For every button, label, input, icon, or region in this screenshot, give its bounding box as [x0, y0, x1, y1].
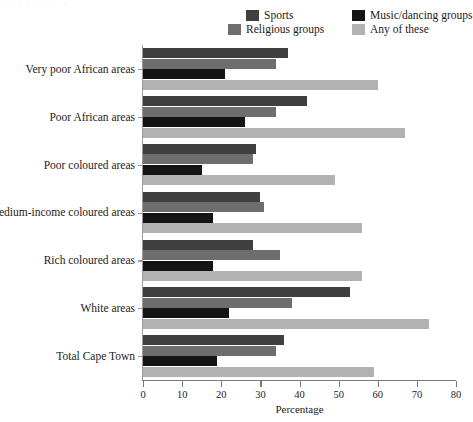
bar-religious — [143, 154, 253, 164]
chart-legend: SportsReligious groupsMusic/dancing grou… — [228, 9, 470, 37]
bar-group: Rich coloured areas — [143, 236, 456, 284]
bar-group: Poor African areas — [143, 93, 456, 141]
legend-label-any: Any of these — [370, 23, 429, 35]
bar-sports — [143, 144, 256, 154]
bar-religious — [143, 107, 276, 117]
bar-music — [143, 69, 225, 79]
bar-sports — [143, 287, 350, 297]
bar-sports — [143, 96, 307, 106]
bar-music — [143, 213, 213, 223]
x-axis-tick — [182, 381, 183, 387]
x-axis-tick — [378, 381, 379, 387]
x-axis-tick-label: 20 — [206, 389, 236, 401]
category-label: Poor coloured areas — [44, 158, 135, 171]
x-axis-tick-label: 50 — [324, 389, 354, 401]
x-axis-tick-label: 40 — [285, 389, 315, 401]
bar-any — [143, 271, 362, 281]
bar-sports — [143, 240, 253, 250]
x-axis-tick-label: 60 — [363, 389, 393, 401]
x-axis-tick — [456, 381, 457, 387]
legend-item-religious: Religious groups — [228, 23, 324, 35]
x-axis-tick-label: 10 — [167, 389, 197, 401]
legend-swatch-religious — [228, 24, 241, 35]
x-axis-tick — [221, 381, 222, 387]
x-axis-tick — [339, 381, 340, 387]
legend-item-any: Any of these — [352, 23, 429, 35]
bar-sports — [143, 48, 288, 58]
bar-music — [143, 261, 213, 271]
x-axis-tick-label: 70 — [402, 389, 432, 401]
bar-music — [143, 165, 202, 175]
category-label: Rich coloured areas — [44, 254, 135, 267]
bar-music — [143, 356, 217, 366]
legend-swatch-sports — [246, 10, 259, 21]
legend-item-music: Music/dancing groups — [352, 9, 473, 21]
bar-any — [143, 319, 429, 329]
bar-group: Poor coloured areas — [143, 141, 456, 189]
category-label: White areas — [80, 302, 135, 315]
legend-item-sports: Sports — [246, 9, 293, 21]
bar-religious — [143, 298, 292, 308]
x-axis-tick — [260, 381, 261, 387]
x-axis-tick — [417, 381, 418, 387]
bar-any — [143, 128, 405, 138]
bar-group: Very poor African areas — [143, 45, 456, 93]
bar-any — [143, 223, 362, 233]
legend-swatch-any — [352, 24, 365, 35]
bar-religious — [143, 202, 264, 212]
bar-sports — [143, 192, 260, 202]
bar-music — [143, 117, 245, 127]
bar-group: White areas — [143, 284, 456, 332]
x-axis-tick — [143, 381, 144, 387]
bar-group: Medium-income coloured areas — [143, 189, 456, 237]
bar-religious — [143, 346, 276, 356]
x-axis-tick — [300, 381, 301, 387]
bar-religious — [143, 59, 276, 69]
x-axis-tick-label: 80 — [441, 389, 471, 401]
category-label: Very poor African areas — [25, 62, 135, 75]
bar-religious — [143, 250, 280, 260]
legend-swatch-music — [352, 10, 365, 21]
category-label: Total Cape Town — [56, 350, 135, 363]
bar-any — [143, 175, 335, 185]
x-axis-tick-label: 30 — [245, 389, 275, 401]
top-cropped-text-strip: · · · · · · · · — [0, 0, 470, 7]
bar-music — [143, 308, 229, 318]
bar-any — [143, 80, 378, 90]
x-axis-tick-label: 0 — [128, 389, 158, 401]
legend-label-sports: Sports — [264, 9, 293, 21]
bar-sports — [143, 335, 284, 345]
x-axis-title: Percentage — [143, 403, 456, 415]
legend-label-religious: Religious groups — [246, 23, 324, 35]
category-label: Poor African areas — [49, 110, 135, 123]
bar-any — [143, 367, 374, 377]
legend-label-music: Music/dancing groups — [370, 9, 473, 21]
chart-plot-area: Percentage 01020304050607080Very poor Af… — [143, 45, 456, 380]
bar-group: Total Cape Town — [143, 332, 456, 380]
category-label: Medium-income coloured areas — [0, 206, 135, 219]
